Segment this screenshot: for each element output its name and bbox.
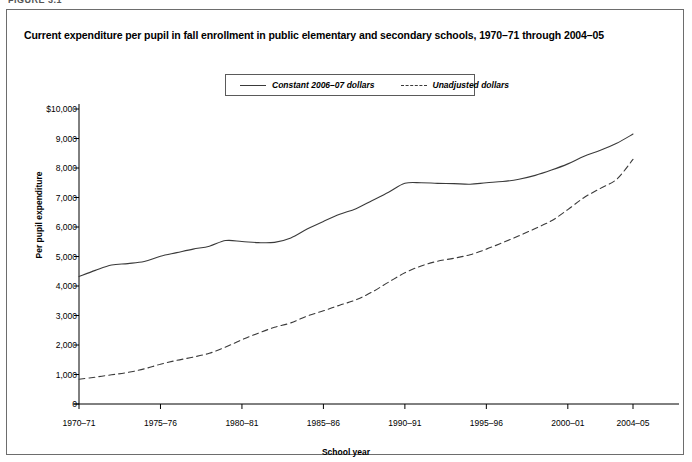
y-tick-label: 0 — [29, 399, 77, 409]
y-tick-label: 8,000 — [29, 163, 77, 173]
x-tick-label: 2004–05 — [603, 418, 663, 428]
x-axis-tick-labels: 1970–711975–761980–811985–861990–911995–… — [7, 410, 685, 430]
x-tick-label: 1970–71 — [49, 418, 109, 428]
y-tick-label: $10,000 — [29, 104, 77, 114]
x-axis-label: School year — [7, 447, 685, 457]
axis-lines — [73, 104, 679, 404]
x-tick-label: 1985–86 — [293, 418, 353, 428]
x-tick-label: 2000–01 — [538, 418, 598, 428]
plot-area: Per pupil expenditure School year $10,00… — [7, 10, 685, 456]
data-series-lines — [79, 134, 633, 379]
figure-tag: FIGURE 3.1 — [8, 0, 62, 3]
y-tick-label: 9,000 — [29, 134, 77, 144]
y-tick-label: 1,000 — [29, 370, 77, 380]
y-tick-label: 6,000 — [29, 222, 77, 232]
y-tick-label: 3,000 — [29, 311, 77, 321]
axis-tick-marks — [74, 109, 633, 409]
x-tick-label: 1990–91 — [375, 418, 435, 428]
y-axis-tick-labels: $10,0009,0008,0007,0006,0005,0004,0003,0… — [25, 10, 77, 456]
x-tick-label: 1975–76 — [130, 418, 190, 428]
x-tick-label: 1995–96 — [456, 418, 516, 428]
y-tick-label: 5,000 — [29, 252, 77, 262]
figure-frame: Current expenditure per pupil in fall en… — [6, 9, 684, 455]
x-tick-label: 1980–81 — [212, 418, 272, 428]
chart-canvas — [7, 10, 685, 456]
y-tick-label: 4,000 — [29, 281, 77, 291]
series-line-dashed — [79, 159, 633, 379]
y-tick-label: 2,000 — [29, 340, 77, 350]
series-line-solid — [79, 134, 633, 276]
y-tick-label: 7,000 — [29, 193, 77, 203]
